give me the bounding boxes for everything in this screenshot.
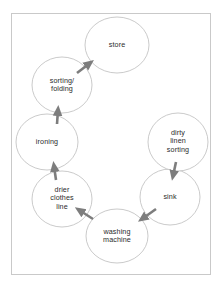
node-circle-store[interactable]	[85, 17, 149, 73]
node-circle-sorting[interactable]	[32, 57, 92, 113]
node-circle-drier[interactable]	[32, 171, 92, 227]
node-circle-washing[interactable]	[86, 209, 148, 263]
node-circle-dirty-linen[interactable]	[148, 113, 208, 171]
node-circle-sink[interactable]	[140, 169, 200, 225]
edge-arrow-ironing-to-sorting[interactable]	[57, 110, 58, 124]
diagram-canvas: storesorting/ foldingironingdrier clothe…	[0, 0, 224, 289]
diagram-graphics	[0, 0, 224, 289]
node-shape-group	[16, 17, 208, 263]
node-circle-ironing[interactable]	[16, 114, 78, 170]
